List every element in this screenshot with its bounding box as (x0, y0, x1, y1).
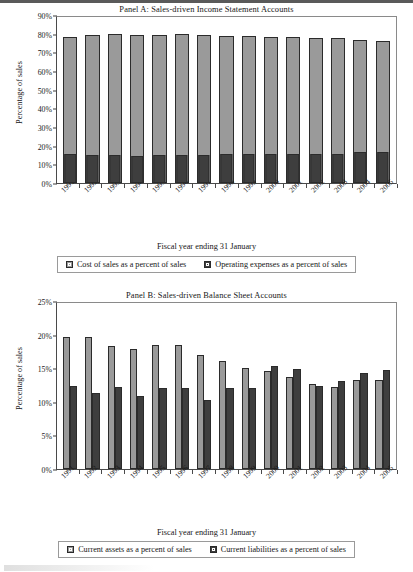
bar (198, 155, 209, 183)
b-y-tick-label: 10% (38, 398, 52, 407)
bar (264, 371, 271, 469)
bar (243, 154, 254, 183)
page-top-rule (0, 0, 413, 3)
bar (219, 361, 226, 469)
bar (271, 366, 278, 469)
panel-b-bars (57, 303, 396, 469)
bar-group (327, 17, 349, 183)
dark-gray-swatch-icon (210, 546, 217, 553)
panel-a-bars (57, 17, 396, 183)
panel-b-title: Panel B: Sales-driven Balance Sheet Acco… (0, 290, 413, 302)
a-y-tick-label: 70% (38, 49, 52, 58)
bar-group (104, 303, 126, 469)
bar (154, 155, 165, 183)
bar (242, 368, 249, 469)
bar (63, 337, 70, 469)
a-y-tick-label: 90% (38, 12, 52, 21)
panel-b-x-labels: 1991199219931994199519961997199819992000… (56, 472, 397, 506)
panel-b-legend: Current assets as a percent of sales Cur… (0, 541, 413, 558)
bar-group (81, 303, 103, 469)
bar-group (349, 303, 371, 469)
scan-artifact (4, 565, 154, 571)
bar-group (215, 303, 237, 469)
bar (87, 155, 98, 183)
a-y-tick-label: 10% (38, 161, 52, 170)
bar (130, 349, 137, 469)
bar (226, 388, 233, 469)
bar-group (171, 303, 193, 469)
bar (360, 373, 367, 469)
bar-group (372, 17, 394, 183)
bar-group (126, 303, 148, 469)
bar (159, 388, 166, 469)
dark-gray-swatch-icon (204, 261, 211, 268)
bar (288, 154, 299, 183)
bar-group (81, 17, 103, 183)
bar (286, 377, 293, 469)
bar-group (305, 303, 327, 469)
bar (70, 386, 77, 469)
panel-a-legend-item-cost-of-sales: Cost of sales as a percent of sales (66, 260, 186, 269)
bar (115, 387, 122, 469)
a-y-tick-label: 30% (38, 124, 52, 133)
bar-group (282, 303, 304, 469)
bar (92, 393, 99, 469)
panel-a-legend-item-operating-expenses: Operating expenses as a percent of sales (204, 260, 347, 269)
light-gray-swatch-icon (66, 261, 73, 268)
a-y-tick-label: 60% (38, 68, 52, 77)
bar-group (305, 17, 327, 183)
bar (176, 155, 187, 183)
bar (182, 388, 189, 469)
panel-b-y-ticks: 0%5%10%15%20%25% (16, 302, 52, 470)
bar (85, 337, 92, 469)
a-y-tick-label: 0% (42, 180, 52, 189)
bar-group (148, 17, 170, 183)
panel-b-legend-item-current-liabilities: Current liabilities as a percent of sale… (210, 545, 346, 554)
bar (64, 154, 75, 183)
bar (316, 386, 323, 469)
bar (293, 369, 300, 469)
bar-group (372, 303, 394, 469)
a-y-tick-label: 50% (38, 86, 52, 95)
bar (131, 156, 142, 183)
panel-a-plot-area (56, 16, 397, 184)
bar (353, 380, 360, 469)
x-tick-mark (397, 470, 398, 474)
panel-b-plot: Percentage of sales 0%5%10%15%20%25% 199… (0, 302, 413, 482)
bar (152, 345, 159, 469)
bar (137, 396, 144, 469)
bar (197, 355, 204, 469)
b-y-tick-label: 5% (42, 432, 52, 441)
panel-a-legend: Cost of sales as a percent of sales Oper… (0, 256, 413, 273)
bar-group (327, 303, 349, 469)
panel-b: Panel B: Sales-driven Balance Sheet Acco… (0, 290, 413, 572)
panel-a-legend-label-cost-of-sales: Cost of sales as a percent of sales (77, 260, 186, 269)
b-y-tick-label: 25% (38, 298, 52, 307)
panel-a-title: Panel A: Sales-driven Income Statement A… (0, 4, 413, 16)
bar (375, 380, 382, 469)
panel-b-legend-label-current-assets: Current assets as a percent of sales (78, 545, 192, 554)
a-y-tick-label: 80% (38, 30, 52, 39)
panel-a: Panel A: Sales-driven Income Statement A… (0, 4, 413, 286)
panel-a-legend-label-operating-expenses: Operating expenses as a percent of sales (215, 260, 347, 269)
b-y-tick-label: 20% (38, 331, 52, 340)
bar (310, 154, 321, 183)
bar-group (260, 17, 282, 183)
bar-group (193, 17, 215, 183)
panel-a-y-ticks: 0%10%20%30%40%50%60%70%80%90% (16, 16, 52, 184)
x-tick-mark (397, 184, 398, 188)
bar-group (238, 17, 260, 183)
bar-group (349, 17, 371, 183)
bar (332, 154, 343, 183)
bar-group (59, 303, 81, 469)
bar-group (171, 17, 193, 183)
bar-group (215, 17, 237, 183)
panel-a-x-axis-label: Fiscal year ending 31 January (0, 242, 413, 251)
bar (338, 381, 345, 469)
bar (108, 346, 115, 469)
bar-group (59, 17, 81, 183)
bar (383, 370, 390, 469)
bar (265, 154, 276, 183)
bar-group (282, 17, 304, 183)
a-y-tick-label: 20% (38, 142, 52, 151)
